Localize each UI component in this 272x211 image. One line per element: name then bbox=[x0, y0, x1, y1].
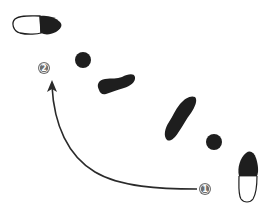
step-badge-2: 2 bbox=[38, 62, 50, 74]
badge-1-label: 1 bbox=[202, 185, 208, 194]
start-shoe-icon bbox=[238, 152, 258, 202]
step-foot-2-icon bbox=[165, 96, 196, 140]
end-shoe-icon bbox=[13, 16, 61, 35]
footprint-diagram: 2 1 bbox=[0, 0, 272, 211]
step-badge-1: 1 bbox=[199, 183, 211, 195]
weight-dot-2 bbox=[206, 134, 222, 150]
weight-dot-1 bbox=[75, 52, 91, 68]
step-foot-1-icon bbox=[98, 74, 135, 94]
badge-2-label: 2 bbox=[41, 64, 47, 73]
